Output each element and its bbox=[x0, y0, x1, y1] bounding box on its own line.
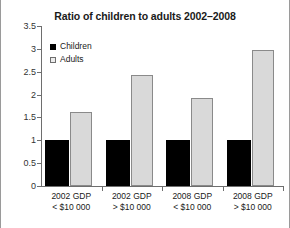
bar-children bbox=[45, 140, 69, 186]
bar-adults bbox=[131, 75, 153, 186]
category-label-line2: < $10 000 bbox=[162, 202, 223, 213]
y-axis-line bbox=[41, 26, 42, 186]
bar-children bbox=[166, 140, 190, 186]
x-axis-category-label: 2002 GDP> $10 000 bbox=[102, 191, 163, 213]
category-label-line1: 2002 GDP bbox=[51, 191, 91, 201]
y-axis-tick bbox=[37, 140, 41, 141]
y-axis-tick bbox=[37, 117, 41, 118]
category-label-line2: > $10 000 bbox=[102, 202, 163, 213]
category-label-line2: < $10 000 bbox=[41, 202, 102, 213]
y-axis-tick-label: 3.5 bbox=[6, 22, 36, 31]
bar-adults bbox=[191, 98, 213, 186]
y-axis-tick-label: 0 bbox=[6, 182, 36, 191]
y-axis-tick bbox=[37, 186, 41, 187]
y-axis-tick-label: 2 bbox=[6, 91, 36, 100]
y-axis-tick-label: 1 bbox=[6, 136, 36, 145]
y-axis-tick-label: 0.5 bbox=[6, 159, 36, 168]
y-axis-tick bbox=[37, 26, 41, 27]
y-axis-tick bbox=[37, 95, 41, 96]
y-axis-tick-label: 3 bbox=[6, 45, 36, 54]
bar-chart-figure: Ratio of children to adults 2002–2008 Ch… bbox=[0, 0, 290, 228]
y-axis-tick bbox=[37, 163, 41, 164]
x-axis-tick bbox=[283, 186, 284, 191]
y-axis-tick-label: 1.5 bbox=[6, 113, 36, 122]
chart-title: Ratio of children to adults 2002–2008 bbox=[1, 10, 289, 22]
category-label-line1: 2008 GDP bbox=[233, 191, 273, 201]
x-axis-category-label: 2002 GDP< $10 000 bbox=[41, 191, 102, 213]
x-axis-category-label: 2008 GDP< $10 000 bbox=[162, 191, 223, 213]
bar-children bbox=[106, 140, 130, 186]
y-axis-tick bbox=[37, 72, 41, 73]
bar-adults bbox=[70, 112, 92, 187]
y-axis-tick bbox=[37, 49, 41, 50]
category-label-line1: 2008 GDP bbox=[172, 191, 212, 201]
bar-children bbox=[227, 140, 251, 186]
y-axis-tick-label: 2.5 bbox=[6, 68, 36, 77]
bar-adults bbox=[252, 50, 274, 186]
category-label-line2: > $10 000 bbox=[223, 202, 284, 213]
x-axis-category-label: 2008 GDP> $10 000 bbox=[223, 191, 284, 213]
category-label-line1: 2002 GDP bbox=[112, 191, 152, 201]
plot-area bbox=[41, 26, 283, 186]
